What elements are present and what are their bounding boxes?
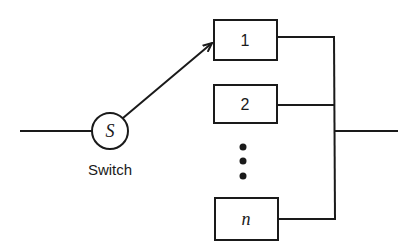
unit-label-2: 2	[241, 96, 250, 113]
unit-box-1: 1	[214, 20, 277, 60]
switch-symbol: S	[106, 121, 115, 141]
unit-label-1: 1	[241, 32, 250, 49]
switch-label: Switch	[88, 161, 132, 178]
ellipsis-dots	[240, 144, 247, 180]
unit-label-n: n	[242, 209, 251, 229]
switch-arm-arrow	[123, 43, 212, 118]
unit-box-n: n	[215, 198, 278, 240]
switch-node: S	[92, 113, 128, 149]
unit-box-2: 2	[214, 85, 277, 123]
output-bus	[277, 36, 335, 220]
switched-redundancy-diagram: S Switch 1 2 n	[0, 0, 415, 245]
